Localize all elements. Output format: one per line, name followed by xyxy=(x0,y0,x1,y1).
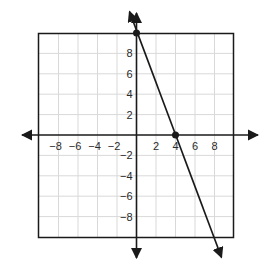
x-tick-label: −4 xyxy=(88,140,101,152)
y-tick-label: 6 xyxy=(126,68,132,80)
y-tick-label: 8 xyxy=(126,47,132,59)
x-tick-label: −2 xyxy=(108,140,121,152)
data-point xyxy=(133,30,140,37)
x-tick-labels: −8−6−4−22468 xyxy=(49,140,217,152)
coordinate-plane: −8−6−4−22468 8642−2−4−6−8 xyxy=(0,0,273,270)
y-tick-label: 2 xyxy=(126,109,132,121)
y-tick-label: −8 xyxy=(120,211,133,223)
y-tick-label: −6 xyxy=(120,190,133,202)
x-tick-label: 6 xyxy=(192,140,198,152)
y-tick-label: −2 xyxy=(120,149,133,161)
data-point xyxy=(172,132,179,139)
y-tick-label: −4 xyxy=(120,170,133,182)
x-tick-label: 8 xyxy=(211,140,217,152)
x-tick-label: 2 xyxy=(153,140,159,152)
x-tick-label: −8 xyxy=(49,140,62,152)
x-tick-label: −6 xyxy=(69,140,82,152)
y-tick-label: 4 xyxy=(126,88,132,100)
